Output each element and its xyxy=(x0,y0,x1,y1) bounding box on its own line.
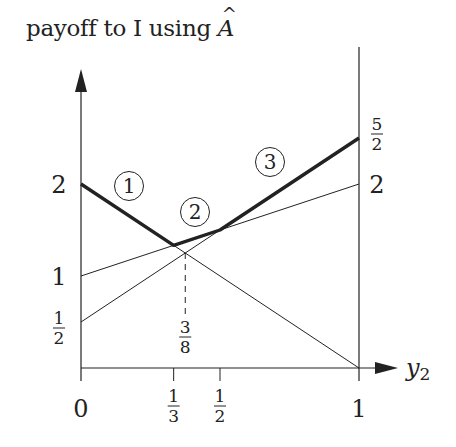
region-label-2: 2 xyxy=(181,198,210,227)
region-number: 2 xyxy=(189,200,202,224)
y-tick-label-right: 2 xyxy=(369,171,384,199)
y-tick-label-left: 2 xyxy=(51,171,66,199)
fraction-numerator: 1 xyxy=(54,308,65,328)
fraction-numerator: 1 xyxy=(215,386,226,406)
region-label-3: 3 xyxy=(256,148,285,177)
fraction-denominator: 2 xyxy=(372,134,383,154)
x-tick-label: 12 xyxy=(214,386,226,426)
x-axis-title-subscript: 2 xyxy=(420,364,431,384)
annotations: 38123 xyxy=(115,148,285,358)
region-label-1: 1 xyxy=(115,172,144,201)
y-tick-label-right: 52 xyxy=(371,114,383,154)
intersection-x-label: 38 xyxy=(179,317,191,357)
fraction-denominator: 2 xyxy=(54,328,65,348)
fraction-numerator: 1 xyxy=(168,386,179,406)
fraction-denominator: 8 xyxy=(180,337,191,357)
y-axis-arrow-icon xyxy=(75,69,87,92)
fraction-denominator: 3 xyxy=(168,406,179,426)
x-tick-label: 13 xyxy=(168,386,180,426)
payoff-chart: 38123 0131212112522y2 xyxy=(0,0,456,447)
x-axis-arrow-icon xyxy=(375,362,398,374)
fraction-numerator: 5 xyxy=(372,114,383,134)
x-axis-title: y2 xyxy=(405,354,430,384)
x-tick-label: 1 xyxy=(351,395,366,423)
region-number: 1 xyxy=(123,174,136,198)
fraction-numerator: 3 xyxy=(180,317,191,337)
tick-labels: 0131212112522y2 xyxy=(51,114,430,426)
fraction-denominator: 2 xyxy=(215,406,226,426)
y-tick-label-left: 1 xyxy=(51,263,66,291)
region-number: 3 xyxy=(264,150,277,174)
x-tick-label: 0 xyxy=(73,395,88,423)
y-tick-label-left: 12 xyxy=(53,308,65,348)
